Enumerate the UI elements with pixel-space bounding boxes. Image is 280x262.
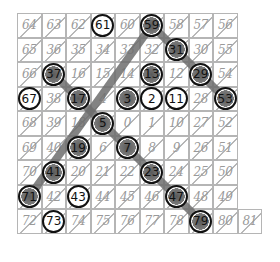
cell-number: 54 <box>214 63 237 86</box>
cell-number: 64 <box>18 14 41 37</box>
grid-cell: 74 <box>66 209 91 234</box>
grid-cell: 49 <box>213 185 238 210</box>
grid-cell: 8 <box>140 136 165 161</box>
grid-cell: 22 <box>115 160 140 185</box>
prime-circle: 13 <box>140 63 163 86</box>
grid-cell: 24 <box>164 160 189 185</box>
cell-number: 28 <box>190 88 213 111</box>
grid-cell: 21 <box>91 160 116 185</box>
grid-cell: 45 <box>115 185 140 210</box>
grid-cell: 51 <box>213 136 238 161</box>
cell-number: 66 <box>18 63 41 86</box>
cell-number: 65 <box>18 39 41 62</box>
cell-number: 40 <box>43 137 66 160</box>
grid-cell: 48 <box>189 185 214 210</box>
cell-number: 60 <box>116 14 139 37</box>
cell-number: 32 <box>141 39 164 62</box>
grid-cell: 63 <box>42 13 67 38</box>
grid-cell: 78 <box>164 209 189 234</box>
prime-circle: 37 <box>42 63 65 86</box>
cell-number: 74 <box>67 210 90 233</box>
cell-number: 50 <box>214 161 237 184</box>
grid-cell: 32 <box>140 38 165 63</box>
cell-number: 68 <box>18 112 41 135</box>
cell-number: 56 <box>214 14 237 37</box>
cell-number: 22 <box>116 161 139 184</box>
cell-number: 6 <box>92 137 115 160</box>
prime-circle: 73 <box>42 210 65 233</box>
cell-number: 33 <box>116 39 139 62</box>
grid-cell: 6 <box>91 136 116 161</box>
cell-number: 78 <box>165 210 188 233</box>
cell-number: 44 <box>92 186 115 209</box>
cell-number: 34 <box>92 39 115 62</box>
cell-number: 69 <box>18 137 41 160</box>
grid-cell: 14 <box>115 62 140 87</box>
grid-cell: 20 <box>66 160 91 185</box>
cell-number: 25 <box>190 161 213 184</box>
grid-cell: 12 <box>164 62 189 87</box>
grid-cell: 62 <box>66 13 91 38</box>
grid-cell: 50 <box>213 160 238 185</box>
cell-number: 18 <box>67 112 90 135</box>
cell-number: 12 <box>165 63 188 86</box>
cell-number: 27 <box>190 112 213 135</box>
cell-number: 77 <box>141 210 164 233</box>
grid-cell: 28 <box>189 87 214 112</box>
prime-circle: 47 <box>165 185 188 208</box>
grid-cell: 76 <box>115 209 140 234</box>
grid-cell: 25 <box>189 160 214 185</box>
grid-cell: 18 <box>66 111 91 136</box>
grid-cell: 58 <box>164 13 189 38</box>
cell-number: 10 <box>165 112 188 135</box>
prime-circle: 31 <box>165 38 188 61</box>
cell-number: 70 <box>18 161 41 184</box>
cell-number: 4 <box>92 88 115 111</box>
cell-number: 35 <box>67 39 90 62</box>
grid-cell: 75 <box>91 209 116 234</box>
grid-cell: 52 <box>213 111 238 136</box>
cell-number: 39 <box>43 112 66 135</box>
grid-cell: 77 <box>140 209 165 234</box>
grid-cell: 65 <box>17 38 42 63</box>
grid-cell: 54 <box>213 62 238 87</box>
cell-number: 1 <box>141 112 164 135</box>
grid-cell: 36 <box>42 38 67 63</box>
cell-number: 0 <box>116 112 139 135</box>
grid-cell: 80 <box>213 209 238 234</box>
cell-number: 57 <box>190 14 213 37</box>
grid-cell: 81 <box>238 209 263 234</box>
cell-number: 62 <box>67 14 90 37</box>
grid-cell: 35 <box>66 38 91 63</box>
cell-number: 76 <box>116 210 139 233</box>
prime-circle: 7 <box>116 136 139 159</box>
cell-number: 26 <box>190 137 213 160</box>
grid-cell: 44 <box>91 185 116 210</box>
prime-circle: 5 <box>91 112 114 135</box>
cell-number: 16 <box>67 63 90 86</box>
grid-cell: 64 <box>17 13 42 38</box>
cell-number: 21 <box>92 161 115 184</box>
prime-circle: 3 <box>116 87 139 110</box>
cell-number: 46 <box>141 186 164 209</box>
grid-cell: 30 <box>189 38 214 63</box>
cell-number: 80 <box>214 210 237 233</box>
grid-cell: 9 <box>164 136 189 161</box>
cell-number: 48 <box>190 186 213 209</box>
prime-circle: 17 <box>67 87 90 110</box>
prime-circle: 71 <box>18 185 41 208</box>
grid-cell: 55 <box>213 38 238 63</box>
prime-circle: 43 <box>67 185 90 208</box>
cell-number: 55 <box>214 39 237 62</box>
grid-cell: 56 <box>213 13 238 38</box>
grid-cell: 16 <box>66 62 91 87</box>
prime-circle: 23 <box>140 161 163 184</box>
grid-cell: 69 <box>17 136 42 161</box>
grid-cell: 33 <box>115 38 140 63</box>
grid-cell: 42 <box>42 185 67 210</box>
grid-cell: 66 <box>17 62 42 87</box>
grid-cell: 68 <box>17 111 42 136</box>
grid-cell: 39 <box>42 111 67 136</box>
grid-cell: 10 <box>164 111 189 136</box>
cell-number: 38 <box>43 88 66 111</box>
